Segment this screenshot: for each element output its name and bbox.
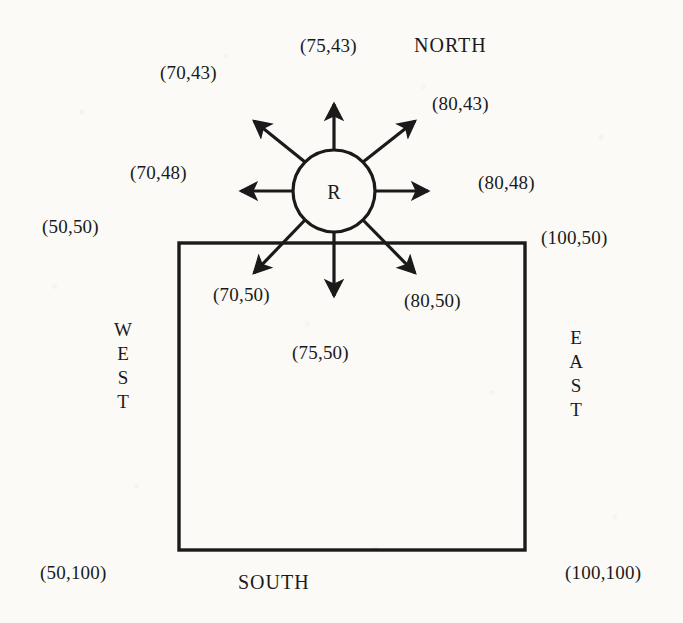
- arrow-northeast: [363, 121, 415, 162]
- compass-west-letter-1: W: [113, 318, 133, 342]
- compass-west-letter-2: E: [113, 342, 133, 366]
- arrow-northwest: [254, 121, 305, 162]
- corner-label-bottom-right: (100,100): [565, 563, 641, 582]
- arrow-southeast: [363, 220, 415, 273]
- label-southwest-coord: (70,50): [213, 285, 270, 304]
- compass-east-letter-3: S: [566, 374, 586, 398]
- label-northwest-coord: (70,43): [160, 63, 217, 82]
- label-southeast-coord: (80,50): [404, 291, 461, 310]
- figure-canvas: R (70,43) (75,43) (80,43) (70,48) (80,48…: [0, 0, 683, 623]
- diagram-graphics: [0, 0, 683, 623]
- compass-east-letter-1: E: [566, 326, 586, 350]
- compass-west-letter-4: T: [113, 390, 133, 414]
- compass-label-south: SOUTH: [238, 572, 310, 592]
- compass-label-east: E A S T: [566, 326, 586, 422]
- label-west-coord: (70,48): [130, 163, 187, 182]
- robot-label: R: [319, 182, 349, 202]
- arrow-southwest: [254, 220, 305, 273]
- corner-label-top-right: (100,50): [541, 228, 608, 247]
- compass-west-letter-3: S: [113, 366, 133, 390]
- label-northeast-coord: (80,43): [432, 94, 489, 113]
- label-south-coord: (75,50): [292, 343, 349, 362]
- corner-label-bottom-left: (50,100): [40, 563, 107, 582]
- compass-label-west: W E S T: [113, 318, 133, 414]
- compass-label-north: NORTH: [414, 35, 487, 55]
- corner-label-top-left: (50,50): [42, 217, 99, 236]
- label-east-coord: (80,48): [478, 173, 535, 192]
- compass-east-letter-2: A: [566, 350, 586, 374]
- compass-east-letter-4: T: [566, 398, 586, 422]
- label-north-coord: (75,43): [300, 36, 357, 55]
